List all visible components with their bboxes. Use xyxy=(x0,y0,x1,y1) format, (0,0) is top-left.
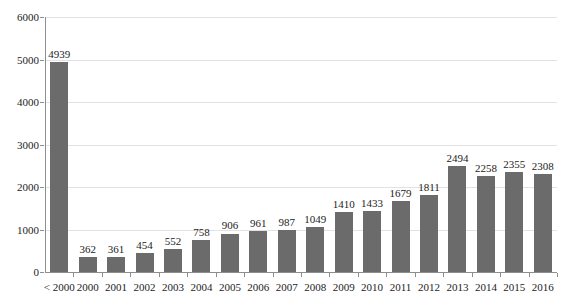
bar xyxy=(50,62,68,272)
bar xyxy=(505,172,523,272)
bar-value-label: 2308 xyxy=(521,161,562,172)
y-axis-tick-label: 0 xyxy=(34,267,40,278)
bar xyxy=(335,212,353,272)
y-axis-tick xyxy=(40,272,44,273)
bar-value-label: 4939 xyxy=(37,49,81,60)
x-axis-tick xyxy=(557,273,558,277)
y-axis-tick-label: 4000 xyxy=(17,97,39,108)
y-axis-tick xyxy=(40,102,44,103)
x-axis-tick xyxy=(273,273,274,277)
bar xyxy=(392,201,410,272)
x-axis-tick xyxy=(443,273,444,277)
y-axis-labels: 0100020003000400050006000 xyxy=(0,0,39,302)
x-axis-tick xyxy=(73,273,74,277)
y-axis-tick xyxy=(40,145,44,146)
bar-value-label: 1433 xyxy=(350,198,394,209)
x-axis-tick xyxy=(329,273,330,277)
y-axis-tick xyxy=(40,230,44,231)
x-axis-tick xyxy=(102,273,103,277)
bar-value-label: 1811 xyxy=(407,182,451,193)
x-axis-tick xyxy=(216,273,217,277)
plot-area: 4939362361454552758906961987104914101433… xyxy=(45,17,557,272)
y-axis-tick-label: 5000 xyxy=(17,55,39,66)
x-axis-tick xyxy=(130,273,131,277)
x-axis-tick xyxy=(187,273,188,277)
x-axis-tick xyxy=(244,273,245,277)
y-axis-tick-label: 6000 xyxy=(17,12,39,23)
x-axis-tick xyxy=(301,273,302,277)
bar xyxy=(448,166,466,272)
bar xyxy=(221,234,239,273)
gridline xyxy=(45,102,557,103)
x-axis-tick-label: 2016 xyxy=(519,281,562,293)
gridline xyxy=(45,145,557,146)
y-axis-line xyxy=(45,17,46,273)
bar xyxy=(363,211,381,272)
gridline xyxy=(45,60,557,61)
bar xyxy=(278,230,296,272)
bar xyxy=(164,249,182,272)
bar xyxy=(79,257,97,272)
bar xyxy=(192,240,210,272)
bar-chart: 0100020003000400050006000 49393623614545… xyxy=(0,0,562,302)
y-axis-tick-label: 3000 xyxy=(17,140,39,151)
bar xyxy=(477,176,495,272)
bar xyxy=(420,195,438,272)
x-axis-tick xyxy=(159,273,160,277)
x-axis-tick xyxy=(386,273,387,277)
x-axis-tick xyxy=(358,273,359,277)
y-axis-tick-label: 1000 xyxy=(17,225,39,236)
y-axis-tick-label: 2000 xyxy=(17,182,39,193)
bar xyxy=(306,227,324,272)
x-axis-tick xyxy=(500,273,501,277)
y-axis-tick xyxy=(40,187,44,188)
x-axis-tick xyxy=(415,273,416,277)
bar xyxy=(107,257,125,272)
x-axis-tick xyxy=(472,273,473,277)
y-axis-tick xyxy=(40,17,44,18)
bar xyxy=(534,174,552,272)
gridline xyxy=(45,17,557,18)
bar xyxy=(249,231,267,272)
bar-value-label: 1049 xyxy=(293,214,337,225)
bar xyxy=(136,253,154,272)
x-axis-tick xyxy=(529,273,530,277)
